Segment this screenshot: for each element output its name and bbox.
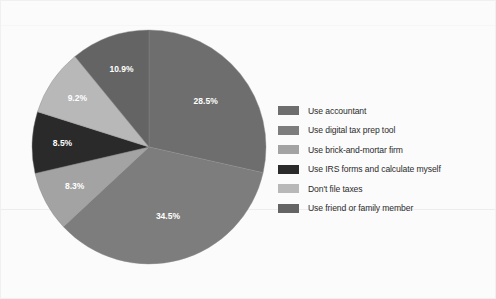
- pie-slice-label: 8.5%: [53, 138, 73, 148]
- legend-item[interactable]: Use friend or family member: [278, 199, 478, 219]
- legend-item[interactable]: Use IRS forms and calculate myself: [278, 160, 478, 180]
- legend-item-label: Use IRS forms and calculate myself: [308, 164, 441, 174]
- pie-slice-label: 9.2%: [68, 93, 88, 103]
- legend-item[interactable]: Use digital tax prep tool: [278, 121, 478, 141]
- pie-slice-label: 10.9%: [109, 64, 134, 74]
- legend-swatch-icon: [278, 165, 299, 174]
- pie-svg: 28.5%34.5%8.3%8.5%9.2%10.9%: [31, 29, 267, 265]
- legend-item[interactable]: Use brick-and-mortar firm: [278, 140, 478, 160]
- pie-slice-label: 34.5%: [156, 211, 181, 221]
- pie-chart: 28.5%34.5%8.3%8.5%9.2%10.9%: [31, 29, 267, 265]
- legend-item-label: Use accountant: [308, 106, 366, 116]
- legend-item-label: Use digital tax prep tool: [308, 125, 395, 135]
- legend-item-label: Use friend or family member: [308, 203, 413, 213]
- legend-swatch-icon: [278, 204, 299, 213]
- legend-item[interactable]: Don't file taxes: [278, 179, 478, 199]
- legend-item[interactable]: Use accountant: [278, 101, 478, 121]
- legend-swatch-icon: [278, 126, 299, 135]
- chart-canvas: 28.5%34.5%8.3%8.5%9.2%10.9% Use accounta…: [0, 0, 496, 299]
- legend-item-label: Don't file taxes: [308, 184, 363, 194]
- pie-slice-label: 28.5%: [194, 96, 219, 106]
- scan-artifact-top: [1, 25, 496, 26]
- legend-item-label: Use brick-and-mortar firm: [308, 145, 403, 155]
- legend-swatch-icon: [278, 106, 299, 115]
- legend-swatch-icon: [278, 184, 299, 193]
- pie-slice-label: 8.3%: [65, 181, 85, 191]
- legend-swatch-icon: [278, 145, 299, 154]
- legend: Use accountantUse digital tax prep toolU…: [278, 101, 478, 218]
